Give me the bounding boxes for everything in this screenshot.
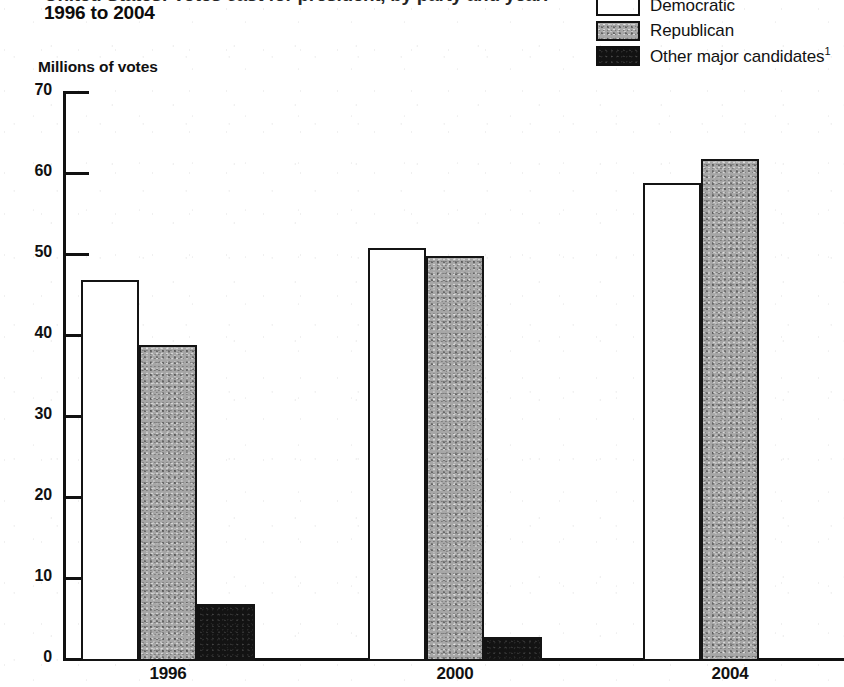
chart-plot-area: 010203040506070 199620002004 <box>0 0 844 687</box>
y-tick-label-30: 30 <box>0 405 52 423</box>
y-tick-label-wrap-0: 0 <box>0 648 55 666</box>
y-tick-50 <box>63 253 89 256</box>
y-axis-line <box>63 91 66 661</box>
y-tick-label-wrap-70: 70 <box>0 81 55 99</box>
y-tick-label-50: 50 <box>0 243 52 261</box>
bar-2004-democratic <box>643 183 701 661</box>
bar-2000-democratic <box>368 248 426 661</box>
bar-2004-republican <box>701 159 759 661</box>
y-tick-70 <box>63 91 89 94</box>
y-tick-label-40: 40 <box>0 324 52 342</box>
y-tick-label-20: 20 <box>0 486 52 504</box>
x-axis-label-2000: 2000 <box>375 664 535 684</box>
y-tick-label-10: 10 <box>0 567 52 585</box>
y-tick-label-60: 60 <box>0 162 52 180</box>
bar-2000-other <box>484 637 542 661</box>
bar-2000-republican <box>426 256 484 661</box>
y-tick-label-wrap-50: 50 <box>0 243 55 261</box>
y-tick-label-0: 0 <box>0 648 52 666</box>
y-tick-label-wrap-20: 20 <box>0 486 55 504</box>
y-tick-label-wrap-10: 10 <box>0 567 55 585</box>
y-tick-label-wrap-30: 30 <box>0 405 55 423</box>
x-axis-label-1996: 1996 <box>88 664 248 684</box>
y-tick-60 <box>63 172 89 175</box>
y-tick-label-70: 70 <box>0 81 52 99</box>
y-tick-label-wrap-60: 60 <box>0 162 55 180</box>
bar-1996-other <box>197 604 255 661</box>
y-tick-label-wrap-40: 40 <box>0 324 55 342</box>
x-axis-label-2004: 2004 <box>650 664 810 684</box>
bar-1996-democratic <box>81 280 139 661</box>
bar-1996-republican <box>139 345 197 661</box>
